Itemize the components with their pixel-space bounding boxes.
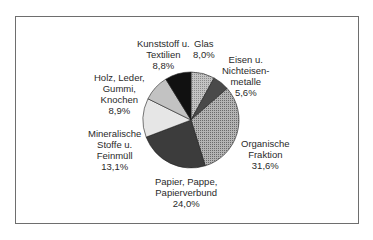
label-glas: Glas 8,0% <box>193 38 215 60</box>
label-kunststoff-textilien: Kunststoff u. Textilien 8,8% <box>137 38 190 71</box>
label-organische-fraktion: Organische Fraktion 31,6% <box>241 138 290 171</box>
label-eisen-nichteisenmetalle: Eisen u. Nichteisen- metalle 5,6% <box>222 54 270 98</box>
label-mineralische-stoffe: Mineralische Stoffe u. Feinmüll 13,1% <box>88 128 141 172</box>
label-papier: Papier, Pappe, Papierverbund 24,0% <box>155 176 217 209</box>
label-holz-leder: Holz, Leder, Gummi, Knochen 8,9% <box>94 72 145 116</box>
